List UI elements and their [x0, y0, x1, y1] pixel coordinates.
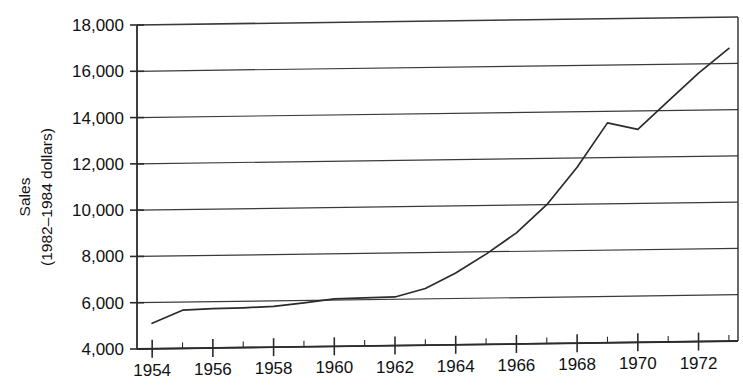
x-tick-label-1962: 1962: [376, 358, 414, 377]
y-axis-title-line2: (1982–1984 dollars): [38, 128, 55, 266]
x-tick-label-1972: 1972: [680, 354, 718, 373]
y-tick-label-18000: 18,000: [72, 16, 124, 35]
y-tick-label-10000: 10,000: [72, 201, 124, 220]
y-tick-label-12000: 12,000: [72, 155, 124, 174]
x-tick-label-1956: 1956: [194, 360, 232, 379]
line-chart: 4,0006,0008,00010,00012,00014,00016,0001…: [0, 0, 743, 388]
chart-canvas: 4,0006,0008,00010,00012,00014,00016,0001…: [0, 0, 743, 388]
x-tick-label-1960: 1960: [315, 358, 353, 377]
y-tick-label-14000: 14,000: [72, 109, 124, 128]
chart-background: [0, 0, 743, 388]
x-tick-label-1958: 1958: [255, 359, 293, 378]
x-tick-label-1954: 1954: [133, 361, 171, 380]
x-tick-label-1970: 1970: [619, 354, 657, 373]
y-tick-label-16000: 16,000: [72, 62, 124, 81]
y-tick-label-4000: 4,000: [81, 340, 124, 359]
y-axis-title-line1: Sales: [16, 177, 33, 216]
x-tick-label-1966: 1966: [498, 356, 536, 375]
x-tick-label-1968: 1968: [558, 355, 596, 374]
y-tick-label-8000: 8,000: [81, 247, 124, 266]
y-tick-label-6000: 6,000: [81, 294, 124, 313]
x-tick-label-1964: 1964: [437, 357, 475, 376]
